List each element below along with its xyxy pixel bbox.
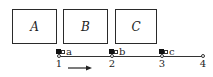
box-b-label: B: [64, 20, 107, 34]
box-a: A: [12, 9, 57, 44]
marker-c-hollow-square: [164, 50, 168, 54]
box-a-label: A: [13, 20, 56, 34]
box-c: C: [115, 9, 157, 44]
marker-b-hollow-square: [114, 50, 118, 54]
marker-a-hollow-square: [61, 50, 65, 54]
marker-a-label: a: [66, 47, 72, 57]
arrow-right-icon: [68, 64, 92, 72]
rail-line: [59, 56, 203, 57]
box-b: B: [63, 9, 108, 44]
station-1-label: 1: [54, 59, 64, 69]
station-3-label: 3: [157, 59, 167, 69]
station-4-label: 4: [198, 59, 208, 69]
station-2-label: 2: [107, 59, 117, 69]
marker-c-label: c: [169, 47, 175, 57]
marker-b-label: b: [119, 47, 125, 57]
box-c-label: C: [116, 20, 156, 34]
